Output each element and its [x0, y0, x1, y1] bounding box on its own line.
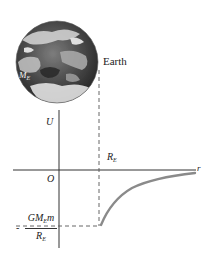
mass-label: ME — [19, 71, 30, 81]
earth-globe — [16, 21, 98, 104]
minus-sign: - — [16, 223, 19, 233]
min-energy-label: GMEm RE — [25, 212, 57, 245]
r-axis-label: r — [197, 164, 201, 173]
u-axis-label: U — [46, 117, 53, 127]
min-energy-numerator: GMEm — [25, 212, 57, 227]
potential-energy-diagram: ME Earth U r O RE - GMEm RE — [0, 0, 215, 258]
origin-label: O — [47, 174, 54, 184]
min-energy-denominator: RE — [25, 230, 57, 245]
radius-label: RE — [107, 152, 117, 163]
potential-energy-curve — [101, 173, 195, 225]
fraction-bar — [25, 228, 57, 229]
earth-label: Earth — [103, 56, 127, 67]
